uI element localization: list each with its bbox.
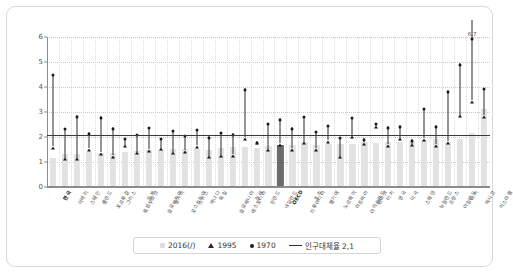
marker-1970 xyxy=(447,90,450,93)
chart-category-포르투갈[interactable] xyxy=(95,37,107,187)
marker-1970 xyxy=(99,116,102,119)
chart-category-터키[interactable] xyxy=(454,37,466,187)
chart-category-일본[interactable] xyxy=(131,37,143,187)
x-axis-label-헝가리: 헝가리 xyxy=(171,189,185,205)
chart-category-뉴질랜드[interactable] xyxy=(418,37,430,187)
chart-category-리투아니아[interactable] xyxy=(286,37,298,187)
range-connector xyxy=(484,88,485,116)
bar-2016 xyxy=(457,139,463,187)
marker-1970 xyxy=(291,127,294,130)
y-tick-label-1: 1 xyxy=(39,158,43,166)
x-axis-label-스페인: 스페인 xyxy=(87,189,101,205)
chart-category-이스라엘[interactable] xyxy=(478,37,490,187)
marker-1995 xyxy=(434,144,438,147)
marker-1995 xyxy=(111,155,115,158)
x-axis-label-한국: 한국 xyxy=(61,189,72,201)
marker-1970 xyxy=(63,128,66,131)
marker-1970 xyxy=(147,127,150,130)
chart-category-오스트리아[interactable] xyxy=(167,37,179,187)
chart-category-슬로바키아[interactable] xyxy=(143,37,155,187)
bar-2016 xyxy=(445,142,451,187)
chart-category-멕시코[interactable]: 6,7 xyxy=(466,37,478,187)
marker-1970 xyxy=(339,137,342,140)
bar-2016 xyxy=(385,142,391,187)
marker-1995 xyxy=(147,149,151,152)
chart-category-폴란드[interactable] xyxy=(83,37,95,187)
marker-1970 xyxy=(243,88,246,91)
legend-label-1995: 1995 xyxy=(217,241,236,250)
marker-1995 xyxy=(123,145,127,148)
marker-1970 xyxy=(327,125,330,128)
chart-category-한국[interactable] xyxy=(47,37,59,187)
chart-category-벨기에[interactable] xyxy=(310,37,322,187)
marker-1970 xyxy=(123,138,126,141)
marker-1970 xyxy=(315,131,318,134)
range-connector xyxy=(268,123,269,149)
line-swatch-icon xyxy=(289,245,302,246)
chart-category-아일랜드[interactable] xyxy=(442,37,454,187)
marker-1995 xyxy=(290,148,294,151)
chart-category-호주[interactable] xyxy=(298,37,310,187)
chart-category-그리스[interactable] xyxy=(107,37,119,187)
chart-category-핀란드[interactable] xyxy=(251,37,263,187)
chart-category-독일[interactable] xyxy=(203,37,215,187)
marker-1995 xyxy=(410,144,414,147)
range-connector xyxy=(448,90,449,141)
chart-category-노르웨이[interactable] xyxy=(322,37,334,187)
y-tick-mark-1 xyxy=(44,162,47,163)
data-label-멕시코: 6,7 xyxy=(468,31,477,37)
marker-1995 xyxy=(314,148,318,151)
chart-category-미국[interactable] xyxy=(394,37,406,187)
marker-1995 xyxy=(374,126,378,129)
bar-2016 xyxy=(134,151,140,187)
y-tick-label-6: 6 xyxy=(39,33,43,41)
marker-1970 xyxy=(171,130,174,133)
bar-2016 xyxy=(469,133,475,188)
range-connector xyxy=(460,63,461,114)
chart-category-프랑스[interactable] xyxy=(430,37,442,187)
chart-category-영국[interactable] xyxy=(382,37,394,187)
y-axis xyxy=(47,37,48,187)
marker-1995 xyxy=(135,152,139,155)
chart-category-이태리[interactable] xyxy=(59,37,71,187)
chart-category-스웨덴[interactable] xyxy=(406,37,418,187)
legend-item-2016: 2016(/) xyxy=(160,241,195,250)
chart-category-슬로베니아[interactable] xyxy=(215,37,227,187)
marker-1970 xyxy=(51,74,54,77)
chart-category-룩셈부르크[interactable] xyxy=(119,37,131,187)
chart-category-캐나다[interactable] xyxy=(191,37,203,187)
chart-category-OECD[interactable] xyxy=(274,37,286,187)
marker-1995 xyxy=(446,141,450,144)
marker-1995 xyxy=(183,150,187,153)
x-axis-label-이스라엘: 이스라엘 xyxy=(497,189,513,210)
marker-1970 xyxy=(483,88,486,91)
marker-1995 xyxy=(207,156,211,159)
chart-category-에스토니아[interactable] xyxy=(227,37,239,187)
chart-category-헝가리[interactable] xyxy=(155,37,167,187)
chart-category-칠레[interactable] xyxy=(239,37,251,187)
chart-category-스위스[interactable] xyxy=(179,37,191,187)
y-tick-mark-4 xyxy=(44,87,47,88)
chart-category-네덜란드[interactable] xyxy=(263,37,275,187)
chart-category-아이슬란드[interactable] xyxy=(346,37,358,187)
y-tick-mark-2 xyxy=(44,137,47,138)
legend-label-replacement-rate: 인구대체율 2,1 xyxy=(305,240,354,251)
chart-category-라트비아[interactable] xyxy=(334,37,346,187)
marker-1995 xyxy=(470,100,474,103)
marker-1995 xyxy=(362,142,366,145)
legend-item-1995: 1995 xyxy=(208,241,236,250)
marker-1995 xyxy=(458,115,462,118)
marker-1995 xyxy=(171,152,175,155)
marker-1995 xyxy=(159,148,163,151)
chart-category-터키[interactable] xyxy=(370,37,382,187)
marker-1995 xyxy=(422,138,426,141)
marker-1995 xyxy=(63,158,67,161)
chart-category-덴마크[interactable] xyxy=(358,37,370,187)
range-connector xyxy=(232,133,233,154)
marker-1970 xyxy=(471,37,474,40)
bar-2016 xyxy=(241,147,247,188)
chart-category-스페인[interactable] xyxy=(71,37,83,187)
bar-2016 xyxy=(409,141,415,187)
marker-1970 xyxy=(267,123,270,126)
marker-1970 xyxy=(75,115,78,118)
